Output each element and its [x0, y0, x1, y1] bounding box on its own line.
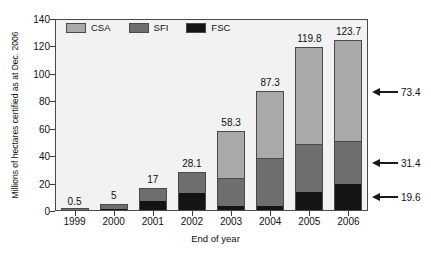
y-tick-mark [50, 184, 55, 185]
bar-1999[interactable] [61, 208, 89, 211]
x-tick-mark [270, 211, 271, 216]
bar-segment-fsc-2004[interactable] [256, 206, 284, 211]
legend-label-csa: CSA [91, 23, 111, 33]
y-tick-mark [50, 19, 55, 20]
bar-2002[interactable] [178, 172, 206, 211]
bar-value-label-2006: 123.7 [324, 26, 372, 37]
x-tick-mark [153, 211, 154, 216]
x-tick-mark [75, 211, 76, 216]
legend-swatch-fsc [186, 23, 206, 33]
x-tick-mark [309, 211, 310, 216]
annotation-value: 31.4 [401, 158, 420, 169]
y-tick-mark [50, 46, 55, 47]
legend-label-sfi: SFI [154, 23, 169, 33]
y-tick-mark [50, 101, 55, 102]
left-arrow-icon [372, 87, 398, 96]
bar-segment-sfi-2003[interactable] [217, 178, 245, 206]
bar-segment-fsc-2000[interactable] [100, 209, 128, 211]
y-tick-label: 80 [14, 96, 50, 107]
fsc-2006-annotation: 19.6 [372, 192, 420, 203]
csa-2006-annotation: 73.4 [372, 86, 420, 97]
bar-segment-fsc-2001[interactable] [139, 201, 167, 211]
bar-segment-fsc-2005[interactable] [295, 192, 323, 211]
x-tick-mark [348, 211, 349, 216]
bar-segment-csa-2006[interactable] [334, 40, 362, 141]
y-tick-mark [50, 74, 55, 75]
chart-legend: CSASFIFSC [66, 23, 230, 33]
y-tick-mark [50, 129, 55, 130]
y-tick-mark [50, 156, 55, 157]
y-tick-label: 100 [14, 68, 50, 79]
bar-2006[interactable] [334, 40, 362, 211]
bar-segment-csa-2004[interactable] [256, 91, 284, 158]
bar-segment-sfi-2001[interactable] [139, 188, 167, 201]
x-axis-title: End of year [0, 233, 431, 244]
bar-2005[interactable] [295, 47, 323, 211]
bar-segment-fsc-2003[interactable] [217, 206, 245, 211]
left-arrow-icon [372, 193, 398, 202]
bar-2004[interactable] [256, 91, 284, 211]
stacked-bar-chart: Millions of hectares certified as at Dec… [0, 0, 431, 263]
legend-item-fsc[interactable]: FSC [186, 23, 230, 33]
legend-item-sfi[interactable]: SFI [129, 23, 169, 33]
annotation-value: 73.4 [401, 86, 420, 97]
bar-value-label-2000: 5 [90, 190, 138, 201]
y-tick-label: 120 [14, 41, 50, 52]
x-tick-mark [192, 211, 193, 216]
bar-segment-csa-2005[interactable] [295, 47, 323, 144]
bar-segment-csa-2003[interactable] [217, 131, 245, 178]
bar-value-label-2002: 28.1 [168, 158, 216, 169]
legend-item-csa[interactable]: CSA [66, 23, 111, 33]
bar-value-label-2001: 17 [129, 174, 177, 185]
annotation-value: 19.6 [401, 192, 420, 203]
bar-segment-sfi-2002[interactable] [178, 172, 206, 192]
bar-segment-sfi-2006[interactable] [334, 141, 362, 184]
bar-segment-fsc-2006[interactable] [334, 184, 362, 211]
x-tick-mark [114, 211, 115, 216]
bar-segment-sfi-2005[interactable] [295, 144, 323, 192]
legend-label-fsc: FSC [211, 23, 230, 33]
legend-swatch-csa [66, 23, 86, 33]
left-arrow-icon [372, 159, 398, 168]
y-tick-label: 140 [14, 14, 50, 25]
y-tick-label: 40 [14, 151, 50, 162]
bar-segment-sfi-2004[interactable] [256, 158, 284, 206]
bar-value-label-2003: 58.3 [207, 117, 255, 128]
y-tick-label: 60 [14, 123, 50, 134]
y-tick-label: 0 [14, 206, 50, 217]
sfi-2006-annotation: 31.4 [372, 158, 420, 169]
legend-swatch-sfi [129, 23, 149, 33]
x-tick-mark [231, 211, 232, 216]
bar-segment-fsc-1999[interactable] [61, 210, 89, 212]
bar-2000[interactable] [100, 204, 128, 211]
y-tick-label: 20 [14, 178, 50, 189]
bar-2003[interactable] [217, 131, 245, 211]
y-tick-mark [50, 211, 55, 212]
bar-value-label-2004: 87.3 [246, 77, 294, 88]
bar-2001[interactable] [139, 188, 167, 211]
bar-segment-fsc-2002[interactable] [178, 193, 206, 211]
x-tick-label-2006: 2006 [325, 216, 371, 227]
